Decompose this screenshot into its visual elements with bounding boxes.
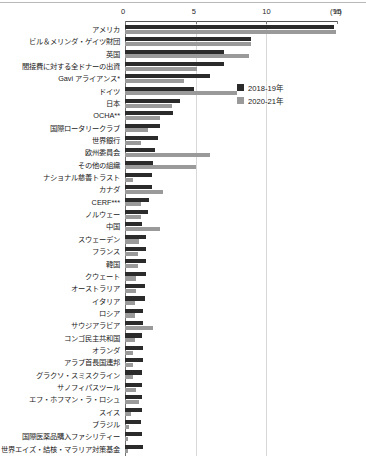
bar-series-2018-19 xyxy=(125,74,210,78)
bar-series-2020-21 xyxy=(125,264,138,268)
bar-series-2018-19 xyxy=(125,432,142,436)
legend: 2018-19年2020-21年 xyxy=(237,82,284,108)
bar-row xyxy=(125,147,337,158)
bar-series-2020-21 xyxy=(125,141,141,145)
bar-row xyxy=(125,259,337,270)
bar-row xyxy=(125,308,337,319)
bar-row xyxy=(125,296,337,307)
bar-series-2020-21 xyxy=(125,42,251,46)
category-label: Gavi アライアンス* xyxy=(58,73,120,84)
category-label: スウェーデン xyxy=(78,234,120,245)
bar-series-2018-19 xyxy=(125,37,251,41)
bar-series-2018-19 xyxy=(125,358,143,362)
bar-series-2020-21 xyxy=(125,375,133,379)
category-label: グラクソ・スミスクライン xyxy=(36,370,120,381)
bar-series-2020-21 xyxy=(125,128,148,132)
bar-series-2018-19 xyxy=(125,272,146,276)
bar-row xyxy=(125,419,337,430)
bar-row xyxy=(125,135,337,146)
bar-series-2020-21 xyxy=(125,437,128,441)
bar-row xyxy=(125,24,337,35)
bar-series-2020-21 xyxy=(125,289,136,293)
legend-label: 2020-21年 xyxy=(248,95,284,106)
category-label: 日本 xyxy=(106,98,120,109)
bar-row xyxy=(125,49,337,60)
plot-area xyxy=(125,24,337,456)
bar-series-2018-19 xyxy=(125,370,142,374)
bar-series-2020-21 xyxy=(125,67,197,71)
category-label: 欧州委員会 xyxy=(85,147,120,158)
category-label: ブラジル xyxy=(92,419,120,430)
bar-row xyxy=(125,86,337,97)
bar-series-2018-19 xyxy=(125,99,180,103)
bar-series-2020-21 xyxy=(125,30,336,34)
category-label: 英国 xyxy=(106,49,120,60)
category-label: ノルウェー xyxy=(85,209,120,220)
bar-series-2018-19 xyxy=(125,161,153,165)
legend-item: 2020-21年 xyxy=(237,95,284,106)
bar-row xyxy=(125,61,337,72)
x-tick-mark xyxy=(337,21,338,24)
bar-series-2020-21 xyxy=(125,276,136,280)
horizontal-bar-chart: 051015 (%) アメリカビル＆メリンダ・ゲイツ財団英国間接費に対する全ドナ… xyxy=(0,0,366,464)
x-axis: 051015 (%) xyxy=(0,0,366,24)
bar-series-2020-21 xyxy=(125,425,129,429)
bar-series-2018-19 xyxy=(125,321,143,325)
bar-series-2018-19 xyxy=(125,185,152,189)
bar-row xyxy=(125,382,337,393)
bar-series-2020-21 xyxy=(125,153,210,157)
bar-row xyxy=(125,283,337,294)
bar-series-2020-21 xyxy=(125,400,139,404)
bar-series-2020-21 xyxy=(125,351,133,355)
bar-series-2018-19 xyxy=(125,284,145,288)
category-label: ビル＆メリンダ・ゲイツ財団 xyxy=(29,36,120,47)
bar-series-2018-19 xyxy=(125,198,149,202)
x-tick-label: 5 xyxy=(192,7,196,16)
category-label: ナショナル慈善トラスト xyxy=(43,172,120,183)
bar-series-2020-21 xyxy=(125,412,131,416)
bar-row xyxy=(125,123,337,134)
bar-row xyxy=(125,394,337,405)
bar-series-2018-19 xyxy=(125,445,143,449)
bar-row xyxy=(125,345,337,356)
category-label: エフ・ホフマン・ラ・ロシュ xyxy=(29,394,120,405)
bar-series-2020-21 xyxy=(125,449,128,453)
bar-series-2018-19 xyxy=(125,296,145,300)
category-label: アメリカ xyxy=(92,24,120,35)
bar-series-2020-21 xyxy=(125,215,141,219)
bar-series-2018-19 xyxy=(125,235,146,239)
bar-series-2020-21 xyxy=(125,388,136,392)
bar-series-2018-19 xyxy=(125,136,158,140)
bar-series-2018-19 xyxy=(125,247,146,251)
bar-series-2018-19 xyxy=(125,259,146,263)
category-label: 世界銀行 xyxy=(92,135,120,146)
bar-row xyxy=(125,197,337,208)
bar-series-2018-19 xyxy=(125,222,142,226)
bar-series-2018-19 xyxy=(125,210,148,214)
bar-row xyxy=(125,184,337,195)
category-label: イタリア xyxy=(92,296,120,307)
bar-row xyxy=(125,73,337,84)
bar-series-2020-21 xyxy=(125,116,160,120)
category-label: カナダ xyxy=(99,184,120,195)
bar-series-2020-21 xyxy=(125,178,133,182)
bar-series-2020-21 xyxy=(125,91,237,95)
bar-series-2018-19 xyxy=(125,124,160,128)
category-label: 中国 xyxy=(106,221,120,232)
bar-series-2018-19 xyxy=(125,309,143,313)
category-label: ロシア xyxy=(99,308,120,319)
legend-swatch xyxy=(237,84,244,91)
bar-row xyxy=(125,246,337,257)
bar-series-2018-19 xyxy=(125,50,224,54)
x-tick-label: 0 xyxy=(121,7,125,16)
bar-series-2020-21 xyxy=(125,227,160,231)
bar-series-2018-19 xyxy=(125,383,142,387)
category-label: オーストラリア xyxy=(71,283,120,294)
category-label: ドイツ xyxy=(99,86,120,97)
bar-series-2018-19 xyxy=(125,346,143,350)
category-label: 国際医薬品購入ファシリティー xyxy=(22,431,120,442)
bar-series-2018-19 xyxy=(125,25,334,29)
category-label: アラブ首長国連邦 xyxy=(64,357,120,368)
bar-row xyxy=(125,209,337,220)
bar-series-2020-21 xyxy=(125,79,184,83)
